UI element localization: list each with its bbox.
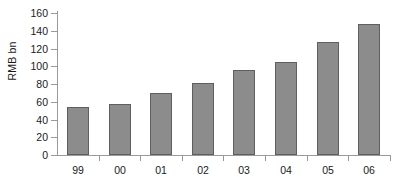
x-axis-line [57,155,391,156]
y-axis-tick [51,120,57,121]
x-axis-tick-label: 05 [307,164,349,176]
bar [109,104,131,155]
x-axis-tick-label: 99 [57,164,99,176]
x-axis-tick-label: 04 [265,164,307,176]
bar [192,83,214,155]
x-axis-tick [99,156,100,161]
x-axis-tick [390,156,391,161]
y-axis-tick-label: 80 [6,79,48,89]
y-axis-tick [51,102,57,103]
x-axis-tick-label: 01 [140,164,182,176]
y-axis-tick-label: 40 [6,115,48,125]
y-axis-tick-label: 120 [6,44,48,54]
x-axis-tick-label: 02 [182,164,224,176]
x-axis-tick [348,156,349,161]
x-axis-tick [265,156,266,161]
bar [233,70,255,155]
x-axis-tick-label: 06 [348,164,390,176]
y-axis-tick-label: 140 [6,26,48,36]
x-axis-tick-label: 00 [99,164,141,176]
y-axis-tick [51,49,57,50]
y-axis-tick-label: 0 [6,150,48,160]
y-axis-tick [51,66,57,67]
y-axis-tick-label: 20 [6,132,48,142]
x-axis-tick [182,156,183,161]
y-axis-tick [51,137,57,138]
y-axis-tick [51,155,57,156]
y-axis-tick-label: 60 [6,97,48,107]
x-axis-tick [307,156,308,161]
x-axis-tick [223,156,224,161]
bar [317,42,339,155]
y-axis-tick [51,13,57,14]
y-axis-line [57,11,58,156]
x-axis-tick [140,156,141,161]
bar [275,62,297,155]
y-axis-tick [51,31,57,32]
bar [358,24,380,155]
bar-chart: RMB bn 020406080100120140160 99000102030… [0,0,402,187]
y-axis-tick-label: 160 [6,8,48,18]
y-axis-tick [51,84,57,85]
bar [150,93,172,155]
bar [67,107,89,155]
y-axis-tick-label: 100 [6,61,48,71]
x-axis-tick-label: 03 [223,164,265,176]
